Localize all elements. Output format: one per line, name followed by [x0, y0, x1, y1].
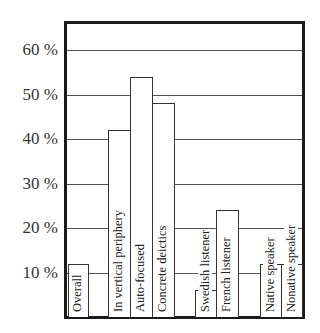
- bar-chart: 10 %20 %30 %40 %50 %60 % OverallIn verti…: [0, 0, 320, 333]
- y-tick-label: 50 %: [23, 86, 58, 104]
- bar-label: French listener: [219, 236, 233, 313]
- bar-label: Native speaker: [263, 236, 277, 313]
- y-tick-label: 40 %: [23, 130, 58, 148]
- gridline: [67, 50, 302, 51]
- y-tick-label: 60 %: [23, 41, 58, 59]
- bar-label: Overall: [70, 274, 84, 313]
- gridline: [67, 95, 302, 96]
- bar-label: Swedish listener: [198, 229, 212, 313]
- gridline: [67, 184, 302, 185]
- y-tick-label: 30 %: [23, 175, 58, 193]
- bar-label: Concrete deictics: [155, 225, 169, 313]
- bar-label: In vertical periphery: [111, 209, 125, 313]
- bar-label: Auto-focused: [133, 243, 147, 313]
- gridline: [67, 228, 302, 229]
- y-tick-label: 10 %: [23, 264, 58, 282]
- bar-label: Nonative speaker: [284, 224, 298, 313]
- y-tick-label: 20 %: [23, 219, 58, 237]
- gridline: [67, 139, 302, 140]
